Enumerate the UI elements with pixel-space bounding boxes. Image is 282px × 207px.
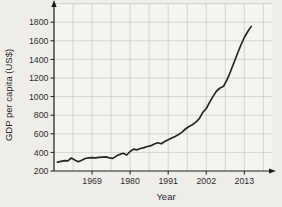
x-axis-arrow-icon xyxy=(269,168,276,173)
y-tick-label: 1400 xyxy=(29,55,49,65)
x-axis-title: Year xyxy=(156,191,175,202)
x-tick-label: 1980 xyxy=(120,176,140,186)
x-tick-label: 2013 xyxy=(235,176,255,186)
y-tick-label: 1200 xyxy=(29,73,49,83)
y-tick-label: 1000 xyxy=(29,92,49,102)
x-tick-label: 1969 xyxy=(82,176,102,186)
plot-area xyxy=(54,4,272,171)
y-tick-label: 400 xyxy=(34,148,49,158)
x-tick-label: 1991 xyxy=(158,176,178,186)
y-tick-label: 600 xyxy=(34,129,49,139)
y-tick-label: 1600 xyxy=(29,36,49,46)
y-tick-label: 1800 xyxy=(29,17,49,27)
y-tick-label: 800 xyxy=(34,110,49,120)
gdp-line-chart: 2004006008001000120014001600180019691980… xyxy=(0,0,282,207)
y-axis-title: GDP per capita (US$) xyxy=(3,49,14,141)
y-tick-label: 200 xyxy=(34,166,49,176)
x-tick-label: 2002 xyxy=(196,176,216,186)
gdp-chart-panel: 2004006008001000120014001600180019691980… xyxy=(0,0,282,207)
